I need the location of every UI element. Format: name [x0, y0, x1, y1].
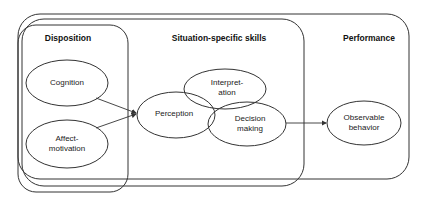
observable-line1: Observable — [344, 113, 385, 122]
perception-text: Perception — [155, 109, 193, 118]
arrow-cognition-perception — [96, 98, 136, 113]
interpretation-label: Interpret- ation — [211, 78, 243, 98]
affect-line1: Affect- — [56, 134, 79, 143]
disposition-box — [18, 25, 128, 192]
performance-title: Performance — [343, 33, 395, 43]
diagram: Disposition Situation-specific skills Pe… — [0, 0, 426, 202]
cognition-text: Cognition — [50, 78, 84, 87]
affect-motivation-label: Affect- motivation — [49, 134, 85, 154]
perception-label: Perception — [155, 109, 193, 119]
decision-making-label: Decision making — [235, 114, 266, 134]
cognition-label: Cognition — [50, 78, 84, 88]
affect-line2: motivation — [49, 144, 85, 153]
diagram-canvas — [0, 0, 426, 202]
observable-behavior-label: Observable behavior — [344, 113, 385, 133]
situation-skills-title: Situation-specific skills — [172, 33, 266, 43]
arrow-affect-perception — [96, 114, 136, 128]
interpretation-line2: ation — [218, 88, 235, 97]
disposition-title: Disposition — [45, 33, 91, 43]
observable-line2: behavior — [349, 123, 380, 132]
decision-line2: making — [237, 124, 263, 133]
interpretation-line1: Interpret- — [211, 78, 243, 87]
situation-skills-box — [22, 19, 304, 186]
decision-line1: Decision — [235, 114, 266, 123]
